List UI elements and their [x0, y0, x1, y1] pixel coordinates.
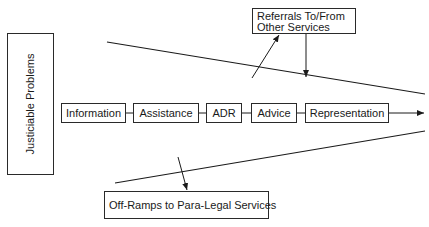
offramps-label: Off-Ramps to Para-Legal Services	[109, 199, 276, 211]
step-label: Advice	[257, 107, 290, 119]
step-label: Information	[66, 107, 121, 119]
funnel-bottom-line	[115, 131, 425, 183]
referral-out-arrow	[252, 35, 279, 78]
step-label: ADR	[212, 107, 235, 119]
step-information: Information	[61, 103, 126, 123]
step-advice: Advice	[251, 103, 297, 123]
referrals-label: Referrals To/From Other Services	[257, 11, 351, 33]
offramp-arrow	[178, 157, 187, 190]
justiciable-problems-label: Justiciable Problems	[25, 54, 37, 155]
step-label: Representation	[310, 107, 385, 119]
step-representation: Representation	[305, 103, 389, 123]
offramps-box: Off-Ramps to Para-Legal Services	[104, 191, 269, 219]
step-label: Assistance	[139, 107, 192, 119]
step-adr: ADR	[206, 103, 242, 123]
justiciable-problems-box: Justiciable Problems	[7, 33, 54, 175]
step-assistance: Assistance	[133, 103, 199, 123]
funnel-top-line	[107, 42, 425, 94]
referrals-box: Referrals To/From Other Services	[252, 8, 356, 34]
